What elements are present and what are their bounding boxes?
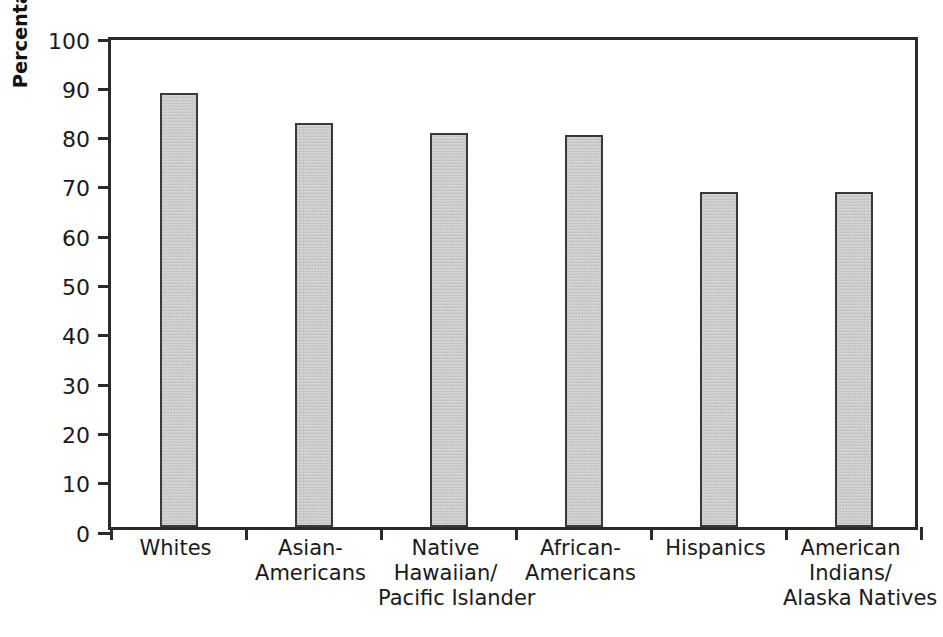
- y-axis-tick: 80: [98, 137, 111, 140]
- x-axis-category-label: Whites: [108, 536, 243, 561]
- y-axis-tick-label: 50: [62, 277, 90, 299]
- x-axis-category-label-line: Whites: [108, 536, 243, 561]
- y-axis-tick-label: 20: [62, 425, 90, 447]
- bar-slot: [111, 40, 246, 527]
- bar[interactable]: [160, 93, 198, 527]
- x-axis-category-label-line: Americans: [243, 561, 378, 586]
- y-axis-tick: 70: [98, 186, 111, 189]
- y-axis-title: Percentage of Americans with health insu…: [0, 0, 40, 77]
- y-axis-tick-label: 80: [62, 129, 90, 151]
- y-axis-tick: 90: [98, 88, 111, 91]
- y-axis-tick: 10: [98, 482, 111, 485]
- x-axis-category-label-line: Alaska Natives: [783, 586, 918, 611]
- bar[interactable]: [430, 133, 468, 527]
- y-axis-tick-label: 60: [62, 228, 90, 250]
- x-axis-category-label-line: Native: [378, 536, 513, 561]
- bar-slot: [516, 40, 651, 527]
- x-axis-category-label: NativeHawaiian/Pacific Islander: [378, 536, 513, 611]
- bar[interactable]: [565, 135, 603, 527]
- y-axis-tick-label: 0: [76, 524, 90, 546]
- x-axis-category-label-line: Hispanics: [648, 536, 783, 561]
- bar[interactable]: [700, 192, 738, 527]
- bar-chart-figure: Percentage of Americans with health insu…: [0, 0, 943, 637]
- bar[interactable]: [835, 192, 873, 527]
- x-axis-category-label: Hispanics: [648, 536, 783, 561]
- y-axis-tick-label: 30: [62, 376, 90, 398]
- plot-area: 0102030405060708090100: [108, 37, 918, 530]
- x-axis-category-label-line: African-: [513, 536, 648, 561]
- bar-slot: [246, 40, 381, 527]
- x-axis-category-label: Asian-Americans: [243, 536, 378, 586]
- y-axis-tick-label: 10: [62, 474, 90, 496]
- y-axis-tick: 60: [98, 236, 111, 239]
- x-axis-category-label: AmericanIndians/Alaska Natives: [783, 536, 918, 611]
- bar-slot: [651, 40, 786, 527]
- bar-slot: [786, 40, 921, 527]
- y-axis-tick: 50: [98, 285, 111, 288]
- y-axis-tick: 100: [98, 39, 111, 42]
- y-axis-tick: 20: [98, 433, 111, 436]
- bar-slot: [381, 40, 516, 527]
- y-axis-tick-label: 40: [62, 326, 90, 348]
- y-axis-tick: 30: [98, 384, 111, 387]
- x-axis-category-label-line: Americans: [513, 561, 648, 586]
- x-axis-category-label-line: American: [783, 536, 918, 561]
- x-axis-category-label-line: Pacific Islander: [378, 586, 513, 611]
- y-axis-tick-label: 70: [62, 178, 90, 200]
- x-axis-category-label-line: Indians/: [783, 561, 918, 586]
- x-axis-category-label: African-Americans: [513, 536, 648, 586]
- bar[interactable]: [295, 123, 333, 527]
- x-axis-tick: [920, 527, 923, 540]
- y-axis-tick: 40: [98, 334, 111, 337]
- x-axis-category-label-line: Hawaiian/: [378, 561, 513, 586]
- bars-layer: [111, 40, 915, 527]
- y-axis-tick-label: 100: [48, 31, 90, 53]
- x-axis-category-label-line: Asian-: [243, 536, 378, 561]
- x-axis-labels: WhitesAsian-AmericansNativeHawaiian/Paci…: [108, 536, 918, 636]
- y-axis-tick-label: 90: [62, 80, 90, 102]
